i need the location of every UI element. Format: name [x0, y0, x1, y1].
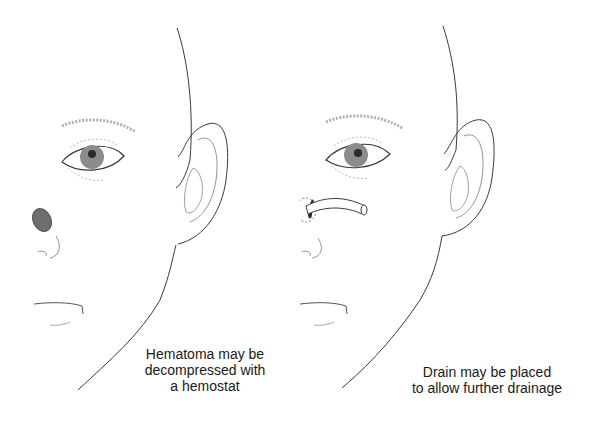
drain-tube-icon	[300, 198, 367, 222]
nostril	[38, 236, 59, 258]
lower-lip	[314, 322, 334, 325]
nostril	[302, 238, 321, 258]
mouth	[300, 303, 347, 314]
mouth	[34, 303, 83, 314]
eye-icon	[326, 137, 390, 178]
panel-hematoma: Hematoma may be decompressed with a hemo…	[0, 0, 300, 423]
ear-icon	[178, 123, 228, 244]
eyebrow	[326, 116, 402, 128]
face-outline	[78, 28, 191, 390]
caption-line: to allow further drainage	[392, 380, 582, 396]
caption-drain: Drain may be placed to allow further dra…	[392, 364, 582, 396]
caption-line: decompressed with	[130, 362, 280, 378]
ear-icon	[442, 120, 494, 236]
hematoma-shape	[29, 205, 55, 234]
eyebrow	[62, 120, 136, 132]
caption-line: a hemostat	[130, 378, 280, 394]
panel-drain: Drain may be placed to allow further dra…	[300, 0, 608, 423]
face-drawing-right	[300, 0, 608, 423]
caption-line: Hematoma may be	[130, 346, 280, 362]
lower-lip	[50, 322, 70, 325]
caption-line: Drain may be placed	[392, 364, 582, 380]
medical-illustration: Hematoma may be decompressed with a hemo…	[0, 0, 608, 423]
eye-icon	[62, 139, 124, 180]
caption-hematoma: Hematoma may be decompressed with a hemo…	[130, 346, 280, 394]
